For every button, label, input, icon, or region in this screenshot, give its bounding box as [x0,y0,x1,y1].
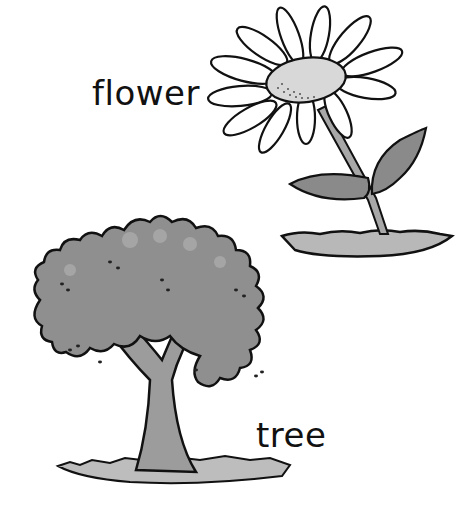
flower-illustration [207,5,452,257]
flower-leaf-left [290,174,369,199]
flower-leaf-right [372,128,426,194]
tree-illustration [34,216,290,483]
tree-label: tree [256,418,326,452]
flower-label: flower [92,76,200,110]
illustration-art [0,0,469,507]
flower-ground [282,230,452,256]
illustration-canvas: flower tree [0,0,469,507]
